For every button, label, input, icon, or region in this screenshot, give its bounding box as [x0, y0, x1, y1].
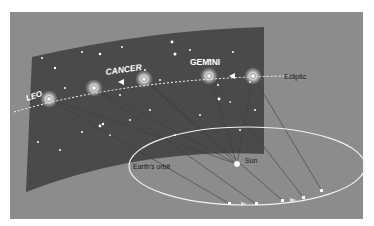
label-sun: Sun — [245, 157, 258, 164]
sun — [234, 161, 241, 168]
label-ecliptic: Ecliptic — [284, 73, 307, 81]
label-gemini: GEMINI — [190, 57, 220, 67]
ecliptic-diagram: LEO CANCER GEMINI Ecliptic Earth's orbit… — [0, 0, 374, 226]
label-earth-orbit: Earth's orbit — [133, 163, 170, 170]
